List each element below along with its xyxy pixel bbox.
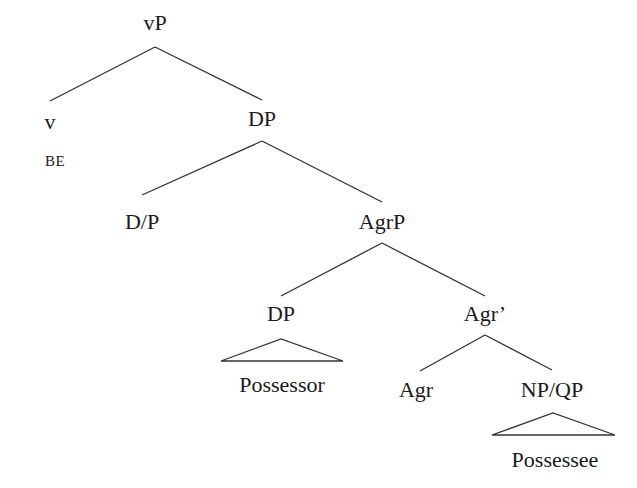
edge-Agr-bar-NP/QP (485, 335, 552, 370)
node-DP-spec: DP (267, 303, 295, 325)
edge-AgrP-Agr-bar (382, 243, 485, 296)
node-possessor: Possessor (239, 374, 325, 396)
edge-DP-DP/P (142, 141, 262, 195)
node-Agr-bar: Agr’ (464, 303, 506, 325)
edge-vP-DP (155, 47, 262, 100)
node-possessee: Possessee (512, 449, 599, 471)
node-NP-QP: NP/QP (521, 379, 583, 401)
edge-AgrP-DP (281, 243, 382, 296)
node-v: v (45, 111, 56, 133)
node-vP: vP (143, 12, 166, 34)
edge-vP-v (50, 47, 155, 101)
node-v-gloss: BE (45, 154, 65, 169)
triangle-possessor (221, 339, 343, 361)
node-DP-top: DP (248, 108, 276, 130)
node-D-P: D/P (125, 211, 159, 233)
node-AgrP: AgrP (359, 211, 405, 233)
edge-Agr-bar-Agr (420, 335, 485, 371)
node-Agr: Agr (399, 379, 433, 401)
edge-DP-AgrP (262, 141, 382, 202)
triangle-possessee (492, 413, 615, 435)
tree-edges (0, 0, 637, 488)
